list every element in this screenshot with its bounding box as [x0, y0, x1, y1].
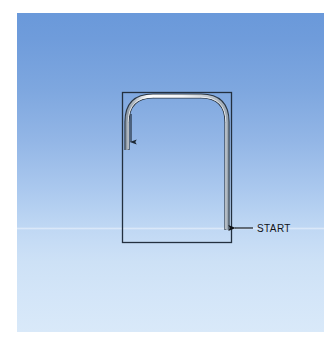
bent-tube — [127, 96, 227, 230]
start-callout: START — [235, 223, 291, 234]
start-label: START — [257, 223, 291, 234]
figure-root: START — [0, 0, 336, 348]
tube-highlight — [128, 97, 226, 229]
diagram-canvas: START — [0, 0, 336, 348]
tube-core-left — [127, 96, 227, 230]
tube-outer-stroke — [127, 96, 227, 230]
reference-rectangle — [123, 93, 232, 243]
